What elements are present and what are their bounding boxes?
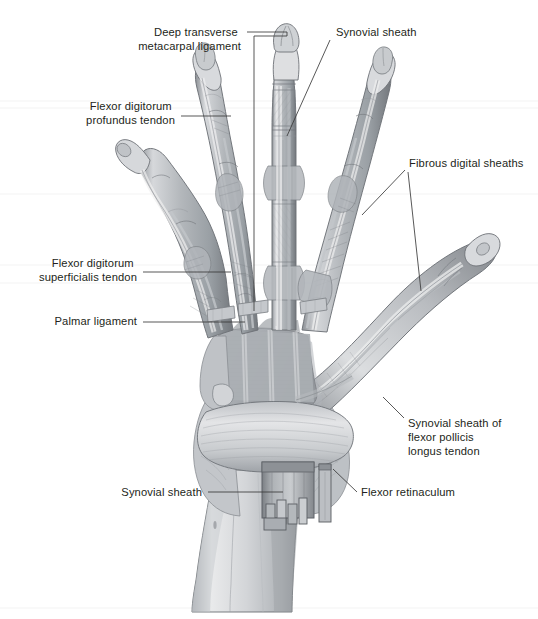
- label-flexor-digitorum-profundus-tendon: Flexor digitorum profundus tendon: [86, 100, 175, 126]
- label-flexor-digitorum-superficialis-tendon: Flexor digitorum superficialis tendon: [39, 257, 137, 283]
- carpal-tunnel-window: [262, 462, 331, 530]
- label-synovial-sheath-top: Synovial sheath: [336, 26, 417, 38]
- label-synovial-sheath-bottom: Synovial sheath: [121, 486, 202, 498]
- leader-fibrous-digital-sheaths-left: [362, 170, 405, 215]
- digit-index-finger: [298, 47, 395, 332]
- anatomy-illustration: Deep transverse metacarpal ligament Syno…: [0, 0, 538, 619]
- label-flexor-retinaculum: Flexor retinaculum: [361, 486, 455, 498]
- figure-canvas: Deep transverse metacarpal ligament Syno…: [0, 0, 538, 619]
- leader-fibrous-digital-sheaths-right: [408, 172, 421, 291]
- leader-synovial-sheath-flexor-pollicis-longus: [383, 397, 404, 418]
- label-fibrous-digital-sheaths: Fibrous digital sheaths: [409, 157, 524, 169]
- label-palmar-ligament: Palmar ligament: [54, 315, 137, 327]
- label-deep-transverse-metacarpal-ligament: Deep transverse metacarpal ligament: [138, 26, 242, 52]
- label-synovial-sheath-of-flexor-pollicis-longus-tendon: Synovial sheath of flexor pollicis longu…: [408, 417, 505, 457]
